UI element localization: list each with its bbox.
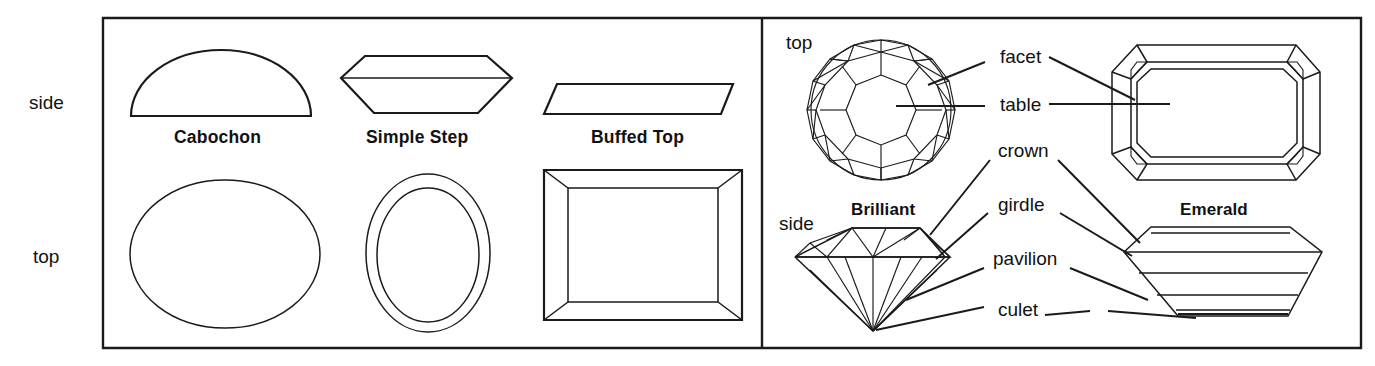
cut-name-simple-step: Simple Step xyxy=(366,129,468,147)
cabochon-side-view xyxy=(130,50,312,116)
emerald-side-view xyxy=(1124,227,1322,316)
brilliant-view-label-top: top xyxy=(786,33,812,52)
leader-pavilion-brilliant xyxy=(906,268,984,300)
cut-name-buffed-top: Buffed Top xyxy=(591,129,684,147)
brilliant-side-view xyxy=(795,228,950,331)
gem-cuts-figure: side top Cabochon Simple Step Buffed Top… xyxy=(0,0,1375,366)
outer-border xyxy=(103,18,1361,348)
simple-step-side-view xyxy=(341,56,512,113)
brilliant-view-label-side: side xyxy=(779,214,814,233)
figure-linework xyxy=(0,0,1375,366)
gem-name-emerald: Emerald xyxy=(1180,201,1248,218)
leader-crown-emerald xyxy=(1058,160,1140,243)
buffed-top-outer-rect xyxy=(544,170,742,320)
leader-girdle-brilliant xyxy=(936,213,988,259)
buffed-top-top-view xyxy=(544,170,742,320)
leader-pavilion-emerald xyxy=(1070,268,1148,300)
callout-label-girdle: girdle xyxy=(998,195,1044,214)
callout-label-facet: facet xyxy=(1000,47,1041,66)
cabochon-top-view xyxy=(130,180,320,328)
cut-name-cabochon: Cabochon xyxy=(174,129,261,147)
gem-name-brilliant: Brilliant xyxy=(851,201,915,218)
panel-borders xyxy=(103,18,1361,348)
leader-facet-emerald xyxy=(1049,57,1135,100)
leader-girdle-emerald xyxy=(1060,213,1132,256)
leader-crown-brilliant xyxy=(930,160,990,235)
row-label-top: top xyxy=(33,247,59,266)
simple-step-top-view xyxy=(366,174,490,332)
callout-label-table: table xyxy=(1000,95,1041,114)
emerald-top-view xyxy=(1112,45,1320,180)
brilliant-top-view xyxy=(807,40,955,180)
buffed-top-side-view xyxy=(544,84,733,114)
callout-label-crown: crown xyxy=(998,141,1049,160)
callout-label-culet: culet xyxy=(998,300,1038,319)
row-label-side: side xyxy=(29,93,64,112)
callout-label-pavilion: pavilion xyxy=(993,249,1057,268)
leader-culet-emerald-a xyxy=(1045,311,1090,315)
buffed-top-inner-rect xyxy=(568,188,718,302)
